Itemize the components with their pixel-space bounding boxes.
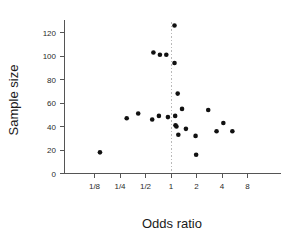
y-tick-label: 100	[43, 52, 57, 61]
y-axis-title: Sample size	[6, 65, 21, 136]
data-point	[136, 111, 141, 116]
data-point	[214, 129, 219, 134]
x-tick-label: 1/2	[140, 182, 152, 191]
data-point	[172, 61, 177, 66]
x-tick-label: 1/8	[89, 182, 101, 191]
x-tick-label: 1	[169, 182, 174, 191]
data-point	[166, 115, 171, 120]
data-point	[98, 150, 103, 155]
data-point	[157, 114, 162, 119]
data-point	[158, 53, 163, 58]
axis-line-group	[65, 20, 282, 174]
x-tick-label: 4	[220, 182, 225, 191]
y-tick-label: 20	[47, 146, 56, 155]
y-tick-label: 80	[47, 76, 56, 85]
data-point-group	[98, 23, 235, 157]
y-tick-label: 40	[47, 123, 56, 132]
data-point	[151, 50, 156, 55]
x-tick-label: 1/4	[114, 182, 126, 191]
data-point	[124, 116, 129, 121]
x-axis-title: Odds ratio	[142, 216, 202, 231]
y-tick-label: 60	[47, 99, 56, 108]
x-tick-label: 8	[245, 182, 250, 191]
data-point	[221, 121, 226, 126]
scatter-plot-figure: 020406080100120 1/81/41/21248 Sample siz…	[0, 0, 289, 243]
data-point	[150, 117, 155, 122]
y-tick-label: 120	[43, 29, 57, 38]
data-point	[172, 23, 177, 28]
data-point	[174, 124, 179, 129]
data-point	[184, 127, 189, 132]
data-point	[230, 129, 235, 134]
data-point	[164, 53, 169, 58]
plot-canvas: 020406080100120 1/81/41/21248 Sample siz…	[0, 0, 289, 243]
data-point	[193, 134, 198, 139]
data-point	[173, 114, 178, 119]
x-tick-label: 2	[194, 182, 199, 191]
data-point	[175, 91, 180, 96]
data-point	[180, 107, 185, 112]
data-point	[206, 108, 211, 113]
x-tick-group: 1/81/41/21248	[89, 174, 250, 191]
y-tick-label: 0	[52, 170, 57, 179]
data-point	[194, 152, 199, 157]
data-point	[176, 132, 181, 137]
y-tick-group: 020406080100120	[43, 29, 65, 179]
